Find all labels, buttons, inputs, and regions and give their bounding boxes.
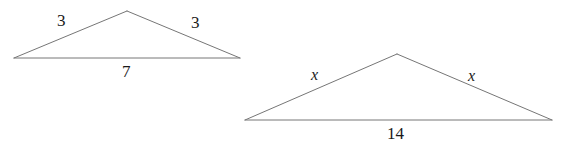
right-triangle-base-label: 14 (387, 125, 404, 142)
left-triangle-right-side-label: 3 (191, 14, 200, 31)
left-triangle-base-label: 7 (122, 63, 131, 80)
right-triangle (245, 54, 552, 120)
left-triangle (14, 11, 240, 58)
right-triangle-left-side-label: x (311, 67, 318, 83)
left-triangle-right-side (127, 11, 240, 58)
triangles-canvas (0, 0, 572, 146)
right-triangle-right-side-label: x (468, 68, 475, 84)
left-triangle-left-side-label: 3 (57, 12, 66, 29)
left-triangle-left-side (14, 11, 127, 58)
similar-triangles-figure: 3 3 7 x x 14 (0, 0, 572, 146)
right-triangle-left-side (245, 54, 397, 120)
right-triangle-right-side (397, 54, 552, 120)
